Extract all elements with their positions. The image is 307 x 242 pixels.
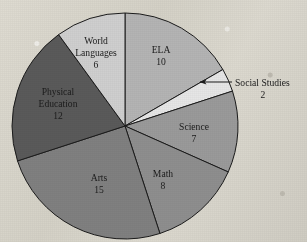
slice-label-ela: ELA (152, 44, 171, 55)
slice-label-physical-education-line1: Physical (42, 86, 75, 97)
slice-value-science: 7 (192, 133, 197, 144)
slice-label-physical-education-line2: Education (39, 98, 78, 109)
slice-value-ela: 10 (156, 56, 166, 67)
slice-value-arts: 15 (94, 184, 104, 195)
slice-label-math: Math (153, 168, 173, 179)
slice-value-physical-education: 12 (53, 110, 63, 121)
slice-label-science: Science (179, 121, 209, 132)
slice-value-social-studies: 2 (261, 89, 266, 100)
slice-label-world-languages-line2: Languages (75, 47, 117, 58)
slice-value-world-languages: 6 (94, 59, 99, 70)
figure-canvas: ELA10Social Studies2Science7Math8Arts15P… (0, 0, 307, 242)
slice-label-social-studies: Social Studies (235, 77, 290, 88)
slice-label-arts: Arts (91, 172, 108, 183)
slice-value-math: 8 (161, 180, 166, 191)
slice-label-world-languages-line1: World (84, 35, 108, 46)
pie-chart: ELA10Social Studies2Science7Math8Arts15P… (0, 0, 307, 242)
